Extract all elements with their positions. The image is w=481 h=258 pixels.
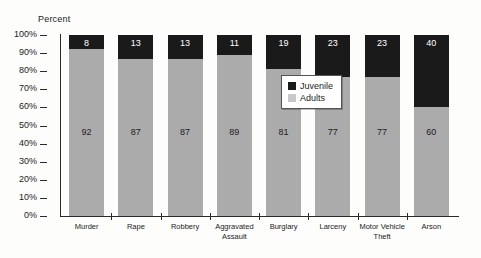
bar-segment-adults (365, 77, 400, 216)
y-axis-line (60, 34, 61, 217)
bar-value-adults: 87 (118, 127, 153, 137)
x-axis-category-label: Burglary (259, 222, 308, 232)
bar-segment-juvenile: 13 (168, 35, 203, 59)
bar-value-adults: 60 (414, 127, 449, 137)
y-axis-tick-label: 0% (24, 210, 37, 220)
legend-swatch-adults-icon (288, 94, 296, 102)
bar-value-juvenile: 23 (315, 38, 350, 48)
bar-value-juvenile: 13 (168, 38, 203, 48)
y-axis-tick-mark (40, 180, 47, 181)
bar-value-juvenile: 19 (266, 38, 301, 48)
stacked-bar-chart: Percent 100%90%80%70%60%50%40%30%20%10%0… (0, 0, 481, 258)
chart-legend: Juvenile Adults (281, 75, 342, 109)
y-axis-tick-label: 40% (19, 138, 37, 148)
y-axis-tick-mark (40, 107, 47, 108)
bar-segment-juvenile: 40 (414, 35, 449, 107)
y-axis-tick-label: 60% (19, 101, 37, 111)
y-axis-tick: 100% (0, 35, 62, 36)
x-axis-category-label: Larceny (308, 222, 357, 232)
y-axis-tick: 10% (0, 198, 62, 199)
y-axis-tick-mark (40, 53, 47, 54)
plot-area: 8921387138711891981237723774060 (62, 35, 456, 216)
y-axis-tick-label: 50% (19, 120, 37, 130)
legend-item-juvenile: Juvenile (288, 80, 333, 92)
bar-value-adults: 92 (69, 127, 104, 137)
y-axis-tick-label: 90% (19, 47, 37, 57)
bar-column: 2377 (315, 35, 350, 216)
y-axis-tick-mark (40, 35, 47, 36)
bar-value-juvenile: 13 (118, 38, 153, 48)
bar-value-juvenile: 23 (365, 38, 400, 48)
x-axis-category-label: Murder (62, 222, 111, 232)
bar-column: 4060 (414, 35, 449, 216)
bar-segment-adults (168, 59, 203, 216)
bar-segment-juvenile: 23 (315, 35, 350, 77)
y-axis-ticks: 100%90%80%70%60%50%40%30%20%10%0% (0, 0, 62, 258)
y-axis-tick: 20% (0, 180, 62, 181)
y-axis-tick: 0% (0, 216, 62, 217)
bar-segment-adults (118, 59, 153, 216)
y-axis-tick-mark (40, 198, 47, 199)
bar-column: 2377 (365, 35, 400, 216)
bar-value-adults: 81 (266, 127, 301, 137)
legend-label-juvenile: Juvenile (300, 81, 333, 91)
legend-item-adults: Adults (288, 92, 333, 104)
x-axis-category-label: Aggravated Assault (210, 222, 259, 242)
bar-segment-juvenile: 19 (266, 35, 301, 69)
y-axis-tick-label: 30% (19, 156, 37, 166)
bar-column: 1387 (118, 35, 153, 216)
y-axis-tick-label: 20% (19, 174, 37, 184)
bar-column: 892 (69, 35, 104, 216)
bar-segment-juvenile: 13 (118, 35, 153, 59)
y-axis-tick: 80% (0, 71, 62, 72)
legend-swatch-juvenile-icon (288, 82, 296, 90)
bar-value-juvenile: 11 (217, 38, 252, 48)
y-axis-tick-label: 10% (19, 192, 37, 202)
bar-value-adults: 89 (217, 127, 252, 137)
x-axis-category-label: Motor Vehicle Theft (358, 222, 407, 242)
bar-segment-adults (414, 107, 449, 216)
y-axis-tick: 50% (0, 126, 62, 127)
y-axis-tick: 60% (0, 107, 62, 108)
bar-column: 1387 (168, 35, 203, 216)
bar-value-juvenile: 40 (414, 38, 449, 48)
y-axis-tick-mark (40, 126, 47, 127)
bar-value-adults: 77 (315, 127, 350, 137)
x-axis-category-label: Rape (111, 222, 160, 232)
bar-segment-juvenile: 8 (69, 35, 104, 49)
y-axis-tick-label: 80% (19, 65, 37, 75)
bar-column: 1981 (266, 35, 301, 216)
bar-value-adults: 87 (168, 127, 203, 137)
y-axis-tick-label: 100% (14, 29, 37, 39)
bar-segment-juvenile: 23 (365, 35, 400, 77)
y-axis-tick: 30% (0, 162, 62, 163)
y-axis-tick: 40% (0, 144, 62, 145)
bar-segment-juvenile: 11 (217, 35, 252, 55)
y-axis-tick-mark (40, 144, 47, 145)
y-axis-tick-label: 70% (19, 83, 37, 93)
legend-label-adults: Adults (300, 93, 325, 103)
y-axis-tick: 70% (0, 89, 62, 90)
y-axis-tick-mark (40, 162, 47, 163)
y-axis-tick-mark (40, 216, 47, 217)
y-axis-tick-mark (40, 89, 47, 90)
bar-value-juvenile: 8 (69, 38, 104, 48)
bar-column: 1189 (217, 35, 252, 216)
x-axis-category-label: Arson (407, 222, 456, 232)
y-axis-tick-mark (40, 71, 47, 72)
x-axis-category-label: Robbery (161, 222, 210, 232)
y-axis-tick: 90% (0, 53, 62, 54)
bar-value-adults: 77 (365, 127, 400, 137)
